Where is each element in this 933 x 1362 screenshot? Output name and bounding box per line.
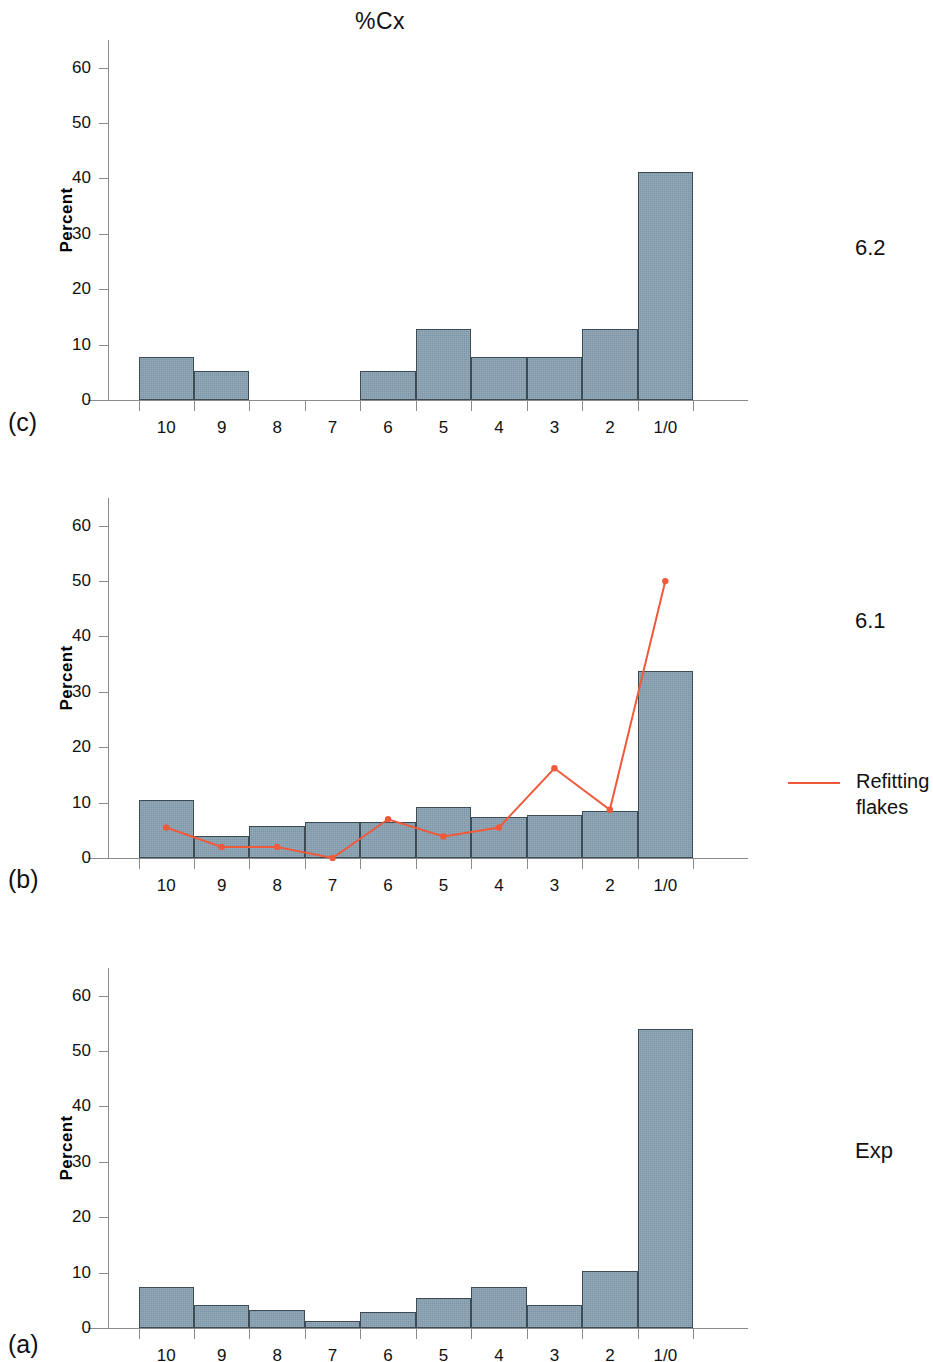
histogram-bar xyxy=(582,811,637,858)
x-tick xyxy=(471,1328,472,1339)
x-tick xyxy=(471,858,472,869)
x-tick xyxy=(360,1328,361,1339)
histogram-bar xyxy=(471,1287,526,1328)
y-tick-label: 50 xyxy=(72,113,91,133)
histogram-bar xyxy=(416,329,471,400)
y-tick-label: 60 xyxy=(72,986,91,1006)
y-tick-label: 50 xyxy=(72,571,91,591)
x-tick-label: 2 xyxy=(605,418,614,438)
histogram-bar xyxy=(305,1321,360,1328)
x-tick xyxy=(139,1328,140,1339)
x-tick xyxy=(527,1328,528,1339)
histogram-bar xyxy=(194,371,249,400)
y-tick-label: 10 xyxy=(72,335,91,355)
legend-line-swatch-icon xyxy=(788,782,840,784)
x-tick xyxy=(527,858,528,869)
y-tick: 30 xyxy=(99,692,108,693)
y-tick: 30 xyxy=(99,234,108,235)
y-tick: 60 xyxy=(99,526,108,527)
y-tick: 20 xyxy=(99,1217,108,1218)
histogram-bar xyxy=(638,1029,693,1328)
histogram-bar xyxy=(471,817,526,858)
x-tick xyxy=(527,400,528,411)
x-tick xyxy=(638,400,639,411)
histogram-bar xyxy=(638,172,693,400)
panel-annotation-label: Exp xyxy=(855,1138,893,1164)
x-tick-label: 3 xyxy=(550,1346,559,1362)
y-axis-line xyxy=(108,968,109,1328)
x-tick-label: 3 xyxy=(550,876,559,896)
y-tick: 0 xyxy=(99,400,108,401)
y-tick-label: 40 xyxy=(72,168,91,188)
histogram-bar xyxy=(582,1271,637,1328)
panel-letter-label: (b) xyxy=(8,865,39,894)
histogram-bar xyxy=(416,1298,471,1328)
y-tick-label: 60 xyxy=(72,516,91,536)
x-tick xyxy=(249,400,250,411)
x-tick xyxy=(194,858,195,869)
legend-label-line1: Refitting xyxy=(856,768,933,794)
histogram-bar xyxy=(249,826,304,858)
y-tick: 20 xyxy=(99,289,108,290)
histogram-bar xyxy=(527,357,582,400)
x-tick-label: 4 xyxy=(494,418,503,438)
histogram-bar xyxy=(527,1305,582,1328)
y-tick: 40 xyxy=(99,1106,108,1107)
plot-area: 0102030405060Percent10987654321/0 xyxy=(108,968,718,1328)
histogram-bar xyxy=(139,800,194,858)
y-tick-label: 0 xyxy=(82,848,91,868)
histogram-bar xyxy=(360,822,415,858)
histogram-bar xyxy=(194,1305,249,1328)
x-tick xyxy=(471,400,472,411)
histogram-bar xyxy=(139,1287,194,1328)
x-tick-label: 9 xyxy=(217,418,226,438)
x-tick xyxy=(638,858,639,869)
y-tick-label: 40 xyxy=(72,626,91,646)
y-tick: 60 xyxy=(99,68,108,69)
histogram-bar xyxy=(582,329,637,400)
x-tick-label: 8 xyxy=(272,418,281,438)
x-tick-label: 3 xyxy=(550,418,559,438)
x-tick xyxy=(249,1328,250,1339)
x-tick xyxy=(305,1328,306,1339)
histogram-bar xyxy=(471,357,526,400)
histogram-bar xyxy=(416,807,471,859)
x-tick-label: 6 xyxy=(383,876,392,896)
histogram-bar xyxy=(139,357,194,400)
x-tick-label: 10 xyxy=(157,1346,176,1362)
y-tick-label: 40 xyxy=(72,1096,91,1116)
x-tick xyxy=(416,1328,417,1339)
y-tick: 40 xyxy=(99,178,108,179)
histogram-bar xyxy=(249,1310,304,1328)
x-tick-label: 10 xyxy=(157,876,176,896)
y-tick-label: 60 xyxy=(72,58,91,78)
x-tick-label: 9 xyxy=(217,1346,226,1362)
x-axis-line xyxy=(88,1328,748,1329)
y-axis-line xyxy=(108,498,109,858)
x-tick xyxy=(139,858,140,869)
x-tick-label: 4 xyxy=(494,876,503,896)
x-tick xyxy=(582,400,583,411)
histogram-bar xyxy=(527,815,582,858)
x-tick xyxy=(416,400,417,411)
x-tick xyxy=(582,858,583,869)
x-tick xyxy=(693,858,694,869)
y-tick-label: 50 xyxy=(72,1041,91,1061)
refitting-flakes-line-series: 10: 5.59: 28: 27: 06: 75: 3.94: 5.53: 16… xyxy=(108,498,718,858)
figure-title: %Cx xyxy=(0,8,760,35)
x-tick-label: 10 xyxy=(157,418,176,438)
y-tick: 60 xyxy=(99,996,108,997)
x-tick-label: 8 xyxy=(272,876,281,896)
x-tick xyxy=(360,400,361,411)
x-tick-label: 1/0 xyxy=(653,418,677,438)
y-tick-label: 10 xyxy=(72,793,91,813)
x-tick xyxy=(416,858,417,869)
x-tick xyxy=(693,1328,694,1339)
x-tick-label: 5 xyxy=(439,1346,448,1362)
plot-area: 0102030405060Percent10987654321/010: 5.5… xyxy=(108,498,718,858)
x-tick xyxy=(194,400,195,411)
y-tick: 30 xyxy=(99,1162,108,1163)
x-tick-label: 4 xyxy=(494,1346,503,1362)
x-tick-label: 2 xyxy=(605,876,614,896)
panel-annotation-label: 6.1 xyxy=(855,608,886,634)
